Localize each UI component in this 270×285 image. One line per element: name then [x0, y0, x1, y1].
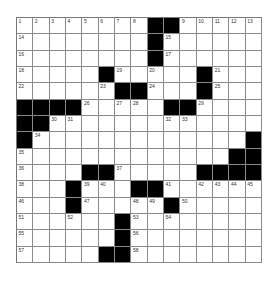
grid-cell[interactable]	[229, 67, 245, 83]
grid-cell[interactable]	[180, 181, 196, 197]
grid-cell[interactable]	[164, 132, 180, 148]
grid-cell[interactable]	[50, 198, 66, 214]
grid-cell[interactable]: 49	[148, 198, 164, 214]
grid-cell[interactable]: 11	[213, 18, 229, 34]
grid-cell[interactable]: 24	[148, 83, 164, 99]
grid-cell[interactable]: 42	[197, 181, 213, 197]
grid-cell[interactable]	[213, 100, 229, 116]
grid-cell[interactable]	[229, 51, 245, 67]
grid-cell[interactable]	[131, 67, 147, 83]
grid-cell[interactable]	[180, 34, 196, 50]
grid-cell[interactable]	[66, 132, 82, 148]
grid-cell[interactable]	[82, 67, 98, 83]
grid-cell[interactable]	[50, 181, 66, 197]
grid-cell[interactable]	[197, 116, 213, 132]
grid-cell[interactable]	[50, 165, 66, 181]
grid-cell[interactable]	[66, 165, 82, 181]
grid-cell[interactable]	[33, 51, 49, 67]
grid-cell[interactable]	[131, 116, 147, 132]
grid-cell[interactable]	[180, 214, 196, 230]
grid-cell[interactable]	[197, 34, 213, 50]
grid-cell[interactable]: 25	[213, 83, 229, 99]
grid-cell[interactable]	[148, 230, 164, 246]
grid-cell[interactable]: 52	[66, 214, 82, 230]
grid-cell[interactable]	[50, 230, 66, 246]
grid-cell[interactable]: 55	[17, 230, 33, 246]
grid-cell[interactable]	[148, 132, 164, 148]
grid-cell[interactable]	[82, 149, 98, 165]
grid-cell[interactable]	[180, 165, 196, 181]
grid-cell[interactable]	[66, 149, 82, 165]
grid-cell[interactable]	[33, 247, 49, 263]
grid-cell[interactable]	[213, 214, 229, 230]
grid-cell[interactable]	[50, 132, 66, 148]
grid-cell[interactable]: 51	[17, 214, 33, 230]
grid-cell[interactable]: 54	[164, 214, 180, 230]
grid-cell[interactable]	[115, 51, 131, 67]
grid-cell[interactable]	[229, 247, 245, 263]
grid-cell[interactable]: 43	[213, 181, 229, 197]
grid-cell[interactable]	[131, 51, 147, 67]
grid-cell[interactable]: 15	[164, 34, 180, 50]
grid-cell[interactable]	[229, 214, 245, 230]
grid-cell[interactable]	[213, 34, 229, 50]
grid-cell[interactable]	[180, 230, 196, 246]
grid-cell[interactable]: 30	[50, 116, 66, 132]
grid-cell[interactable]: 47	[82, 198, 98, 214]
grid-cell[interactable]	[66, 34, 82, 50]
grid-cell[interactable]	[50, 214, 66, 230]
grid-cell[interactable]	[148, 247, 164, 263]
grid-cell[interactable]	[197, 132, 213, 148]
grid-cell[interactable]	[246, 83, 262, 99]
grid-cell[interactable]	[164, 149, 180, 165]
grid-cell[interactable]: 14	[17, 34, 33, 50]
grid-cell[interactable]: 6	[99, 18, 115, 34]
grid-cell[interactable]	[33, 230, 49, 246]
grid-cell[interactable]	[229, 116, 245, 132]
grid-cell[interactable]: 26	[82, 100, 98, 116]
grid-cell[interactable]	[197, 149, 213, 165]
grid-cell[interactable]	[82, 132, 98, 148]
grid-cell[interactable]	[66, 83, 82, 99]
grid-cell[interactable]	[82, 116, 98, 132]
grid-cell[interactable]: 19	[115, 67, 131, 83]
grid-cell[interactable]: 33	[180, 116, 196, 132]
grid-cell[interactable]	[213, 230, 229, 246]
grid-cell[interactable]: 13	[246, 18, 262, 34]
grid-cell[interactable]	[246, 214, 262, 230]
grid-cell[interactable]	[246, 34, 262, 50]
grid-cell[interactable]	[82, 230, 98, 246]
grid-cell[interactable]	[213, 198, 229, 214]
grid-cell[interactable]	[180, 247, 196, 263]
grid-cell[interactable]: 32	[164, 116, 180, 132]
grid-cell[interactable]: 44	[229, 181, 245, 197]
grid-cell[interactable]	[66, 247, 82, 263]
grid-cell[interactable]	[180, 67, 196, 83]
grid-cell[interactable]: 31	[66, 116, 82, 132]
grid-cell[interactable]: 46	[17, 198, 33, 214]
grid-cell[interactable]	[82, 34, 98, 50]
grid-cell[interactable]	[213, 116, 229, 132]
grid-cell[interactable]	[164, 230, 180, 246]
grid-cell[interactable]	[213, 247, 229, 263]
grid-cell[interactable]: 20	[148, 67, 164, 83]
grid-cell[interactable]	[99, 149, 115, 165]
grid-cell[interactable]	[164, 83, 180, 99]
grid-cell[interactable]: 12	[229, 18, 245, 34]
grid-cell[interactable]: 18	[17, 67, 33, 83]
grid-cell[interactable]: 48	[131, 198, 147, 214]
grid-cell[interactable]	[246, 198, 262, 214]
grid-cell[interactable]	[99, 230, 115, 246]
grid-cell[interactable]	[33, 83, 49, 99]
grid-cell[interactable]	[229, 132, 245, 148]
grid-cell[interactable]	[246, 67, 262, 83]
grid-cell[interactable]: 28	[131, 100, 147, 116]
grid-cell[interactable]	[50, 34, 66, 50]
grid-cell[interactable]	[50, 247, 66, 263]
grid-cell[interactable]	[246, 100, 262, 116]
grid-cell[interactable]	[164, 165, 180, 181]
grid-cell[interactable]: 16	[17, 51, 33, 67]
grid-cell[interactable]: 35	[17, 149, 33, 165]
grid-cell[interactable]	[33, 149, 49, 165]
grid-cell[interactable]	[99, 214, 115, 230]
